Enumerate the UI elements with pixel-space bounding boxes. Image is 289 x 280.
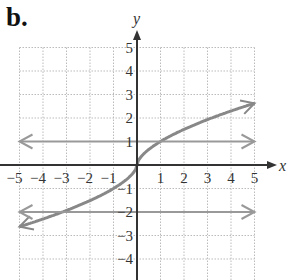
y-axis-label: y xyxy=(131,10,141,28)
y-axis-arrow-icon xyxy=(133,30,141,40)
y-tick-label: 1 xyxy=(126,134,134,150)
tick-labels: −5−4−3−2−11234554321−1−2−3−4 xyxy=(7,40,259,268)
y-tick-label: 3 xyxy=(126,87,134,103)
x-tick-label: −5 xyxy=(7,170,23,186)
x-tick-label: −3 xyxy=(54,170,70,186)
x-tick-label: 2 xyxy=(180,170,188,186)
y-tick-label: −1 xyxy=(117,181,133,197)
x-axis-arrow-icon xyxy=(267,161,277,169)
x-tick-label: 3 xyxy=(204,170,212,186)
y-tick-label: 5 xyxy=(126,40,134,56)
y-tick-label: 4 xyxy=(126,63,134,79)
x-tick-label: −4 xyxy=(30,170,46,186)
x-tick-label: 4 xyxy=(227,170,235,186)
y-tick-label: −4 xyxy=(117,251,133,267)
y-tick-label: 2 xyxy=(126,110,134,126)
x-axis-label: x xyxy=(278,157,286,174)
x-tick-label: 1 xyxy=(157,170,165,186)
x-tick-label: −2 xyxy=(77,170,93,186)
y-tick-label: −2 xyxy=(117,204,133,220)
x-tick-label: 5 xyxy=(251,170,259,186)
y-tick-label: −3 xyxy=(117,228,133,244)
graph: xy −5−4−3−2−11234554321−1−2−3−4 xyxy=(0,0,289,280)
x-tick-label: −1 xyxy=(101,170,117,186)
